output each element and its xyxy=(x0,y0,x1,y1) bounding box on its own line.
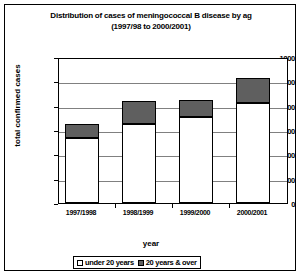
legend-label-20-years-and-over: 20 years & over xyxy=(146,258,197,267)
x-tick-mark-3 xyxy=(229,204,230,208)
x-tick-mark-2 xyxy=(172,204,173,208)
x-tick-label-2000-2001: 2000/2001 xyxy=(223,209,281,216)
chart-screenshot: Distribution of cases of meningococcal B… xyxy=(0,0,301,276)
bar-group-2000-2001[interactable] xyxy=(236,78,270,203)
bar-group-1998-1999[interactable] xyxy=(122,101,156,203)
x-axis-title: year xyxy=(5,239,297,248)
x-tick-mark-1 xyxy=(115,204,116,208)
chart-title: Distribution of cases of meningococcal B… xyxy=(5,10,297,32)
bar-segment-20-years-and-over[interactable] xyxy=(122,101,156,124)
bar-segment-under-20-years[interactable] xyxy=(236,103,270,203)
x-tick-label-1999-2000: 1999/2000 xyxy=(166,209,224,216)
legend-entry-under-20-years[interactable]: under 20 years xyxy=(77,258,134,267)
legend-swatch-icon-under-20-years xyxy=(77,260,83,266)
bar-group-1997-1998[interactable] xyxy=(65,124,99,203)
bar-segment-under-20-years[interactable] xyxy=(65,138,99,203)
bar-group-1999-2000[interactable] xyxy=(179,100,213,203)
chart-title-line1: Distribution of cases of meningococcal B… xyxy=(50,11,251,20)
x-tick-label-1997-1998: 1997/1998 xyxy=(52,209,110,216)
legend-label-under-20-years: under 20 years xyxy=(85,258,134,267)
plot-area xyxy=(58,58,288,204)
x-tick-label-1998-1999: 1998/1999 xyxy=(109,209,167,216)
bar-segment-under-20-years[interactable] xyxy=(179,117,213,203)
bar-segment-20-years-and-over[interactable] xyxy=(179,100,213,117)
bar-segment-20-years-and-over[interactable] xyxy=(236,78,270,103)
chart-frame: Distribution of cases of meningococcal B… xyxy=(4,4,296,271)
bar-segment-20-years-and-over[interactable] xyxy=(65,124,99,138)
bar-segment-under-20-years[interactable] xyxy=(122,124,156,203)
legend-swatch-icon-20-years-and-over xyxy=(138,260,144,266)
chart-subtitle: (1997/98 to 2000/2001) xyxy=(5,21,297,32)
chart-legend[interactable]: under 20 years 20 years & over xyxy=(73,256,201,269)
y-tick-mark-0 xyxy=(54,204,58,205)
legend-entry-20-years-and-over[interactable]: 20 years & over xyxy=(138,258,197,267)
y-axis-title: total confirmed cases xyxy=(13,51,22,161)
